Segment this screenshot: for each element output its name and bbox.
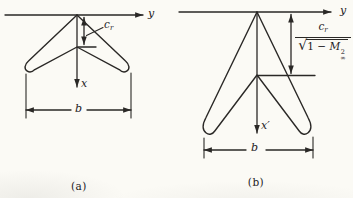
wing-planform-figure: y x cr b (a) y x′ b (b) cr √1 − M2∞ bbox=[0, 0, 353, 198]
fraction-denominator: √1 − M2∞ bbox=[293, 39, 353, 61]
span-label-b: b bbox=[251, 142, 258, 153]
y-axis-label-b: y bbox=[340, 5, 346, 16]
caption-b: (b) bbox=[244, 177, 268, 188]
radicand-prefix: 1 − bbox=[307, 40, 329, 52]
mach-subscript: ∞ bbox=[340, 56, 345, 62]
root-chord-leader-a bbox=[87, 28, 104, 36]
root-chord-fraction-b: cr √1 − M2∞ bbox=[293, 21, 353, 61]
mach-symbol: M bbox=[329, 40, 340, 52]
caption-a: (a) bbox=[67, 181, 91, 192]
span-label-a: b bbox=[75, 103, 82, 114]
y-axis-label-a: y bbox=[148, 8, 154, 19]
fraction-numerator: cr bbox=[293, 21, 353, 36]
x-prime-axis-label-b: x′ bbox=[261, 120, 270, 131]
x-axis-label-a: x bbox=[81, 78, 87, 89]
root-chord-label-a: cr bbox=[104, 19, 113, 34]
